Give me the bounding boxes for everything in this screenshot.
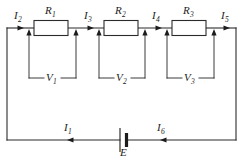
label-I3: I3 — [84, 10, 91, 21]
arrowhead-V3-left — [164, 29, 169, 36]
arrowhead-I5 — [224, 25, 231, 30]
label-V2: V2 — [116, 72, 126, 83]
label-V3: V3 — [184, 72, 194, 83]
resistor-R1-body — [34, 21, 68, 36]
label-R1: R1 — [45, 5, 55, 16]
label-R2-base: R — [115, 4, 122, 16]
arrowhead-V1-left — [26, 29, 31, 36]
label-I4: I4 — [152, 10, 159, 21]
label-I1: I1 — [64, 122, 71, 133]
label-V3-base: V — [184, 71, 191, 83]
arrowhead-I3 — [88, 25, 95, 30]
arrowhead-V1-right — [73, 29, 78, 36]
arrowhead-I1 — [67, 137, 74, 142]
label-I6: I6 — [157, 122, 164, 133]
label-E-base: E — [120, 146, 127, 158]
label-V2-sub: 2 — [123, 77, 127, 86]
arrowhead-I2 — [18, 25, 25, 30]
arrowhead-V2-right — [142, 29, 147, 36]
label-I4-sub: 4 — [156, 15, 160, 24]
label-I2-sub: 2 — [18, 15, 22, 24]
label-V1: V1 — [46, 72, 56, 83]
arrowhead-I6 — [160, 137, 167, 142]
label-I1-sub: 1 — [68, 127, 72, 136]
circuit-diagram: R1 R2 R3 V1 V2 V3 I2 I3 I4 I5 I1 I6 E — [0, 0, 244, 158]
arrowhead-V3-right — [211, 29, 216, 36]
arrowhead-V2-left — [96, 29, 101, 36]
label-I3-sub: 3 — [88, 15, 92, 24]
label-R1-sub: 1 — [52, 10, 56, 19]
arrowhead-I4 — [156, 25, 163, 30]
label-I6-sub: 6 — [161, 127, 165, 136]
label-R3-base: R — [183, 4, 190, 16]
resistor-R3-body — [172, 21, 206, 36]
label-V1-base: V — [46, 71, 53, 83]
label-V1-sub: 1 — [53, 77, 57, 86]
label-V3-sub: 3 — [191, 77, 195, 86]
label-I2: I2 — [14, 10, 21, 21]
label-R2-sub: 2 — [122, 10, 126, 19]
label-E: E — [120, 147, 127, 158]
label-I5-sub: 5 — [225, 15, 229, 24]
label-R2: R2 — [115, 5, 125, 16]
label-V2-base: V — [116, 71, 123, 83]
label-R3: R3 — [183, 5, 193, 16]
label-I5: I5 — [221, 10, 228, 21]
resistor-R2-body — [104, 21, 138, 36]
label-R1-base: R — [45, 4, 52, 16]
label-R3-sub: 3 — [190, 10, 194, 19]
